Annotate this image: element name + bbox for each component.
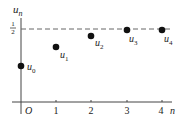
x-tick-label-3: 3: [125, 105, 130, 116]
y-axis-label: un: [13, 3, 23, 18]
x-tick-label-1: 1: [54, 105, 59, 116]
x-tick-label-2: 2: [89, 105, 94, 116]
label-u2: u2: [95, 37, 104, 51]
point-u2: [88, 33, 95, 40]
half-denominator: 2: [11, 28, 15, 36]
origin-label: O: [25, 105, 32, 116]
sequence-diagram: un 1 2 u0 u1 u2 u3 u4 O 1 2 3 4 n: [0, 0, 188, 122]
label-u4: u4: [164, 33, 173, 47]
label-u1: u1: [60, 49, 69, 63]
x-axis-label: n: [170, 105, 175, 116]
half-numerator: 1: [11, 20, 15, 28]
label-u3: u3: [129, 33, 138, 47]
point-u0: [18, 63, 25, 70]
label-u0: u0: [27, 61, 36, 75]
x-tick-label-4: 4: [159, 105, 164, 116]
point-u1: [53, 44, 60, 51]
